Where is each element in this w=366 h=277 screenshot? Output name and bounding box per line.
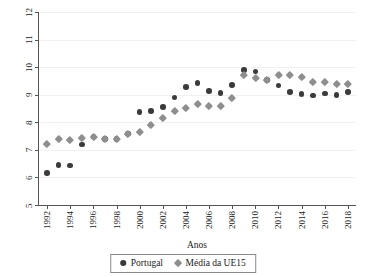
x-axis-tick [278, 205, 279, 209]
data-point [113, 135, 121, 143]
data-point [322, 91, 328, 97]
data-point [276, 83, 282, 89]
gridline [39, 67, 356, 68]
legend-item-portugal[interactable]: Portugal [120, 257, 163, 269]
x-axis-tick [140, 205, 141, 209]
data-point [286, 71, 294, 79]
gridline [39, 12, 356, 13]
data-point [205, 102, 213, 110]
y-axis-tick-label: 9 [24, 89, 35, 100]
x-axis-tick-label: 2008 [227, 211, 238, 229]
data-point [194, 100, 202, 108]
x-axis-tick-label: 2016 [320, 211, 331, 229]
x-axis-tick-label: 1998 [112, 211, 123, 229]
x-axis-tick-label: 2014 [297, 211, 308, 229]
gridline [39, 95, 356, 96]
data-point [287, 89, 293, 95]
y-axis-tick-label: 8 [24, 117, 35, 128]
x-axis-tick [70, 205, 71, 209]
y-axis-tick [35, 95, 39, 96]
data-point [251, 74, 259, 82]
data-point [55, 135, 63, 143]
gridline [39, 40, 356, 41]
x-axis-tick-label: 1996 [88, 211, 99, 229]
y-axis-tick [35, 67, 39, 68]
data-point [66, 136, 74, 144]
data-point [345, 89, 351, 95]
data-point [321, 78, 329, 86]
x-axis-tick [163, 205, 164, 209]
x-axis-tick-label: 2006 [204, 211, 215, 229]
y-axis-tick [35, 150, 39, 151]
data-point [78, 134, 86, 142]
x-axis-tick-label: 2010 [250, 211, 261, 229]
data-point [137, 109, 143, 115]
gridline [39, 150, 356, 151]
y-axis-tick-label: 10 [24, 62, 35, 73]
data-point [334, 92, 340, 98]
data-point [195, 80, 201, 86]
x-axis-tick [302, 205, 303, 209]
x-axis-tick [232, 205, 233, 209]
x-axis-tick [93, 205, 94, 209]
x-axis-tick [117, 205, 118, 209]
x-axis-tick [186, 205, 187, 209]
data-point [43, 140, 51, 148]
data-point [170, 106, 178, 114]
legend-item-media-ue15[interactable]: Média da UE15 [175, 257, 246, 269]
x-axis-tick-label: 1992 [42, 211, 53, 229]
data-point [275, 71, 283, 79]
data-point [229, 82, 235, 88]
data-point [89, 133, 97, 141]
y-axis-tick-label: 6 [24, 172, 35, 183]
data-point [67, 163, 73, 169]
data-point [332, 80, 340, 88]
data-point [101, 135, 109, 143]
data-point [344, 80, 352, 88]
x-axis-tick-label: 2012 [273, 211, 284, 229]
plot-area: 5678910111219921994199619982000200220042… [38, 12, 356, 206]
gridline [39, 122, 356, 123]
data-point [182, 104, 190, 112]
data-point [299, 91, 305, 97]
data-point [124, 129, 132, 137]
x-axis-tick [209, 205, 210, 209]
chart-title [0, 0, 366, 2]
y-axis-tick [35, 122, 39, 123]
data-point [183, 84, 189, 90]
x-axis-tick [47, 205, 48, 209]
data-point [298, 73, 306, 81]
x-axis-tick [348, 205, 349, 209]
x-axis-tick-label: 2000 [135, 211, 146, 229]
data-point [148, 108, 154, 114]
x-axis-tick-label: 2018 [343, 211, 354, 229]
legend-circle-marker-icon [120, 260, 126, 266]
x-axis-tick [325, 205, 326, 209]
data-point [310, 93, 316, 99]
x-axis-tick-label: 1994 [65, 211, 76, 229]
y-axis-tick [35, 12, 39, 13]
y-axis-tick-label: 11 [24, 34, 35, 45]
data-point [56, 162, 62, 168]
chart-figure: Despesa de saúde em proporção do PIB 567… [0, 0, 366, 277]
legend-diamond-marker-icon [174, 259, 182, 267]
legend-label-portugal: Portugal [131, 257, 163, 269]
data-point [217, 102, 225, 110]
chart-legend: Portugal Média da UE15 [110, 254, 256, 273]
data-point [79, 142, 85, 148]
y-axis-tick-label: 5 [24, 200, 35, 211]
gridline [39, 177, 356, 178]
data-point [159, 114, 167, 122]
legend-label-media-ue15: Média da UE15 [186, 257, 246, 269]
y-axis-tick-label: 7 [24, 144, 35, 155]
data-point [172, 95, 178, 101]
data-point [136, 128, 144, 136]
data-point [309, 78, 317, 86]
data-point [206, 88, 212, 94]
y-axis-tick [35, 40, 39, 41]
y-axis-tick [35, 205, 39, 206]
data-point [44, 170, 50, 176]
x-axis-tick [255, 205, 256, 209]
x-axis-tick-label: 2002 [158, 211, 169, 229]
x-axis-tick-label: 2004 [181, 211, 192, 229]
